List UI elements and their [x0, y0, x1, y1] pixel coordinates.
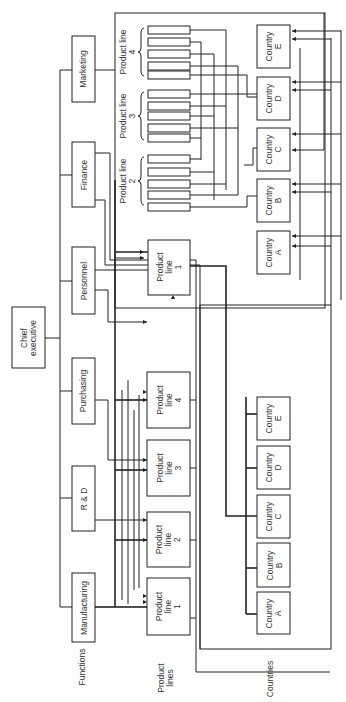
- matrix-country-a-label: Country A: [257, 231, 290, 274]
- function-manufacturing: Manufacturing: [77, 574, 91, 643]
- chief-executive-label: Chief executive: [22, 308, 36, 369]
- matrix-group-product-line-4: Product line 4: [116, 24, 140, 80]
- function-finance: Finance: [77, 143, 91, 208]
- function-rd: R & D: [77, 467, 91, 532]
- product-line-2-label: Product line 2: [141, 518, 196, 561]
- function-purchasing: Purchasing: [76, 358, 90, 424]
- product-line-1-label: Product line 1: [140, 584, 197, 629]
- country-c-label: Country C: [257, 495, 290, 538]
- matrix-country-e-label: Country E: [257, 25, 290, 68]
- countries-heading: Countries: [263, 657, 277, 701]
- product-line-bars: [148, 26, 190, 211]
- function-marketing: Marketing: [76, 36, 90, 102]
- product-line-3-label: Product line 3: [141, 447, 197, 490]
- matrix-group-product-line-2: Product line 2: [116, 153, 140, 209]
- matrix-country-c-label: Country C: [257, 128, 290, 171]
- functions-heading: Functions: [75, 647, 89, 687]
- country-a-label: Country A: [257, 592, 290, 635]
- function-personnel: Personnel: [77, 248, 91, 315]
- matrix-group-product-line-3: Product line 3: [116, 88, 140, 144]
- product-lines-heading: Product lines: [154, 658, 178, 698]
- product-line-4-label: Product line 4: [141, 379, 197, 422]
- matrix-country-d-label: Country D: [257, 77, 290, 120]
- country-e-label: Country E: [257, 397, 290, 440]
- country-b-label: Country B: [258, 544, 291, 588]
- matrix-country-b-label: Country B: [257, 179, 290, 222]
- country-d-label: Country D: [257, 446, 290, 489]
- matrix-product-line-1-label: Product line 1: [148, 240, 190, 295]
